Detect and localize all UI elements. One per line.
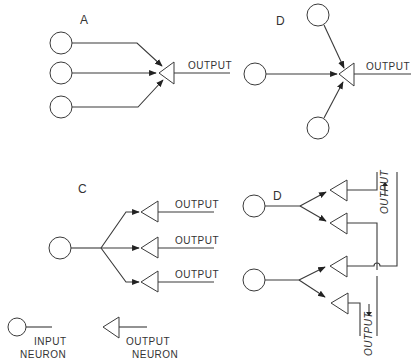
output-neuron xyxy=(330,180,347,201)
connection-wire xyxy=(101,248,139,282)
input-neuron xyxy=(243,195,265,217)
panel-d-bottom-label: D xyxy=(273,189,282,203)
input-neuron xyxy=(307,117,329,139)
panel-a-label: A xyxy=(80,13,88,27)
input-neuron xyxy=(50,96,72,118)
panel-d-top-label: D xyxy=(276,14,285,28)
input-neuron xyxy=(307,4,329,26)
output-label: OUTPUT xyxy=(175,199,219,210)
connection-wire xyxy=(300,206,326,221)
output-line xyxy=(348,303,360,336)
legend-output-label-line2: NEURON xyxy=(132,349,178,360)
output-neuron xyxy=(330,213,347,234)
panel-d-top: D OUTPUT xyxy=(244,4,411,139)
connection-wire xyxy=(324,82,343,118)
output-neuron xyxy=(331,293,348,314)
legend-input-label-line1: INPUT xyxy=(34,336,67,347)
legend-input-neuron-icon xyxy=(8,318,26,336)
connection-wire xyxy=(72,80,163,107)
legend-input-label-line2: NEURON xyxy=(20,349,66,360)
connection-wire xyxy=(300,192,326,206)
panel-c-label: C xyxy=(78,182,87,196)
output-label: OUTPUT xyxy=(363,312,374,357)
panel-a: A OUTPUT xyxy=(50,13,232,118)
output-line xyxy=(347,172,377,190)
input-neuron xyxy=(49,237,71,259)
output-neuron xyxy=(141,271,158,292)
output-label: OUTPUT xyxy=(366,61,410,72)
legend-output-neuron-icon xyxy=(103,317,119,338)
panel-c: C OUTPUT OUTPUT OUTPUT xyxy=(49,182,219,292)
output-neuron xyxy=(141,237,158,258)
input-neuron xyxy=(244,63,266,85)
output-label: OUTPUT xyxy=(188,60,232,71)
input-neuron xyxy=(50,32,72,54)
panel-d-bottom: D OUTPUT OUTPUT xyxy=(243,170,397,357)
output-label: OUTPUT xyxy=(175,235,219,246)
connection-wire xyxy=(299,280,325,297)
input-neuron xyxy=(243,269,265,291)
output-label: OUTPUT xyxy=(175,269,219,280)
output-neuron xyxy=(330,256,347,277)
output-neuron xyxy=(339,63,354,86)
connection-wire xyxy=(324,25,344,68)
output-neuron xyxy=(141,201,158,222)
neural-diagram: A OUTPUT D OUTPUT C OUTPU xyxy=(0,0,413,364)
input-neuron xyxy=(50,62,72,84)
legend-output-label-line1: OUTPUT xyxy=(126,336,170,347)
legend: INPUT NEURON OUTPUT NEURON xyxy=(8,317,178,360)
connection-wire xyxy=(299,267,325,280)
connection-wire xyxy=(101,212,139,248)
connection-wire xyxy=(72,43,162,66)
